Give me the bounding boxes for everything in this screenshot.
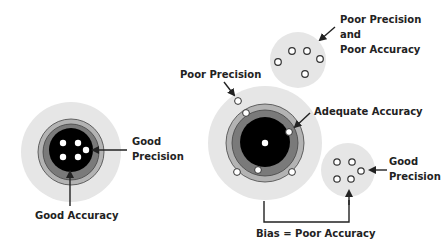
shot-dot	[304, 48, 311, 55]
shot-dot	[289, 169, 296, 176]
poor-precision-accuracy-arrow-icon	[320, 27, 335, 40]
bottom-right-cluster	[321, 143, 387, 197]
bottom-right-cluster-halo	[321, 143, 375, 197]
shot-dot	[334, 176, 340, 182]
shot-dot	[348, 176, 354, 182]
shot-dot	[349, 159, 355, 165]
shot-dot	[286, 129, 293, 136]
shot-dot	[358, 168, 364, 174]
shot-dot	[243, 110, 250, 117]
shot-dot	[262, 140, 268, 146]
shot-dot	[302, 71, 309, 78]
good-accuracy-label: Good Accuracy	[35, 210, 119, 221]
left-good-precision-label: Good Precision	[132, 136, 184, 162]
shot-dot	[235, 98, 242, 105]
poor-precision-label: Poor Precision	[180, 69, 261, 80]
center-target	[208, 82, 322, 200]
left-target	[21, 102, 127, 206]
shot-dot	[60, 154, 66, 160]
poor-precision-arrow-icon	[224, 82, 234, 95]
top-right-cluster	[270, 27, 335, 88]
shot-dot	[275, 59, 282, 66]
right-good-precision-label: Good Precision	[389, 156, 441, 182]
shot-dot	[83, 147, 89, 153]
shot-dot	[60, 140, 66, 146]
bias-bracket-line	[264, 200, 349, 222]
adequate-accuracy-label: Adequate Accuracy	[314, 106, 423, 117]
shot-dot	[255, 167, 262, 174]
shot-dot	[75, 140, 81, 146]
shot-dot	[289, 48, 296, 55]
poor-precision-and-accuracy-label: Poor Precision and Poor Accuracy	[340, 14, 425, 55]
shot-dot	[234, 169, 241, 176]
shot-dot	[75, 154, 81, 160]
bias-poor-accuracy-label: Bias = Poor Accuracy	[256, 228, 376, 239]
precision-accuracy-diagram: Good Precision Good Accuracy Poor Precis…	[0, 0, 445, 247]
shot-dot	[317, 56, 324, 63]
shot-dot	[334, 159, 340, 165]
